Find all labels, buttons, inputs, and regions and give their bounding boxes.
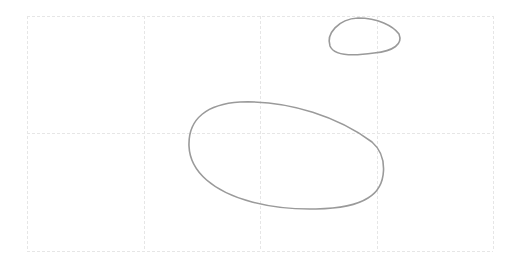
sketch-shapes <box>189 18 400 209</box>
grid-lines <box>27 16 494 252</box>
sketch-canvas <box>0 0 515 267</box>
small-ellipse-sketch <box>329 18 400 55</box>
large-ellipse-sketch <box>189 102 384 209</box>
